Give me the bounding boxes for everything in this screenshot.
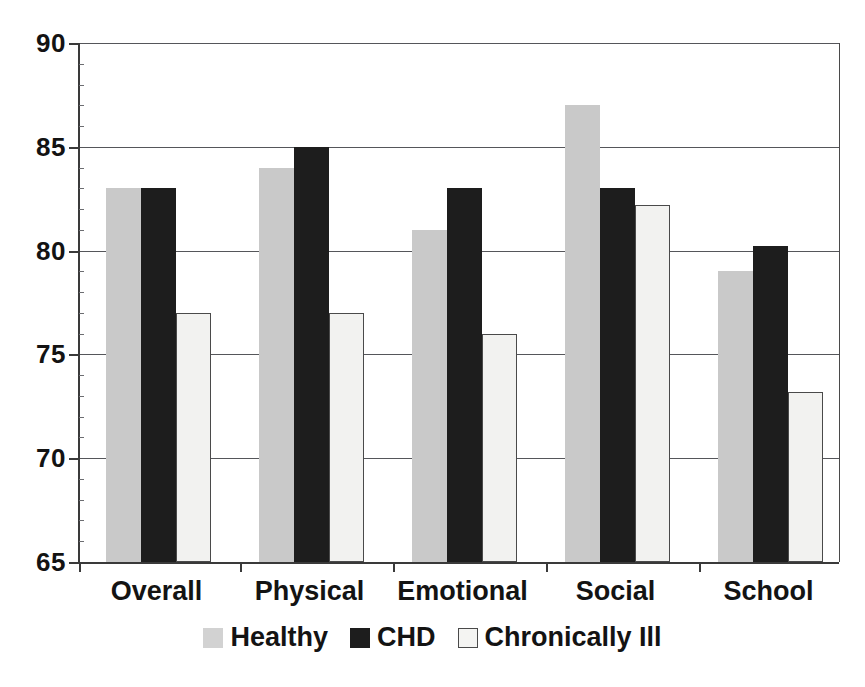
y-tick-minor — [79, 396, 84, 397]
bar-physical-healthy[interactable] — [259, 168, 294, 562]
y-tick-minor — [79, 541, 84, 542]
y-tick-minor — [79, 188, 84, 189]
bar-physical-chronically-ill[interactable] — [329, 313, 364, 562]
y-axis-label-75: 75 — [8, 339, 66, 370]
y-tick-minor — [79, 168, 84, 169]
x-tick — [546, 562, 548, 572]
bar-physical-chd[interactable] — [294, 147, 329, 562]
bar-emotional-chd[interactable] — [447, 188, 482, 562]
y-tick-minor — [79, 375, 84, 376]
x-axis-label-emotional: Emotional — [397, 576, 528, 607]
bar-group-overall — [106, 43, 211, 562]
plot-area — [78, 43, 840, 562]
x-axis-label-school: School — [723, 576, 813, 607]
bar-overall-chd[interactable] — [141, 188, 176, 562]
x-tick — [240, 562, 242, 572]
y-tick-minor — [79, 85, 84, 86]
bar-emotional-chronically-ill[interactable] — [482, 334, 517, 562]
y-tick-minor — [79, 105, 84, 106]
y-tick-minor — [79, 520, 84, 521]
y-tick-minor — [79, 479, 84, 480]
swatch-white-outline-icon — [458, 628, 478, 648]
x-axis-label-social: Social — [576, 576, 656, 607]
y-tick-75 — [69, 354, 80, 356]
gridline-65 — [80, 562, 839, 564]
legend-item-chd[interactable]: CHD — [350, 622, 436, 653]
y-tick-minor — [79, 126, 84, 127]
y-axis-label-90: 90 — [8, 28, 66, 59]
bar-group-emotional — [412, 43, 517, 562]
y-axis-label-80: 80 — [8, 235, 66, 266]
x-tick — [699, 562, 701, 572]
bar-group-school — [718, 43, 823, 562]
legend-item-chronically-ill[interactable]: Chronically Ill — [458, 622, 662, 653]
y-tick-90 — [69, 43, 80, 45]
y-tick-minor — [79, 64, 84, 65]
swatch-light-gray-icon — [203, 628, 223, 648]
y-tick-80 — [69, 251, 80, 253]
y-tick-minor — [79, 500, 84, 501]
bar-overall-healthy[interactable] — [106, 188, 141, 562]
x-tick-origin — [79, 562, 81, 572]
y-tick-70 — [69, 458, 80, 460]
bar-overall-chronically-ill[interactable] — [176, 313, 211, 562]
y-tick-minor — [79, 437, 84, 438]
x-axis-label-overall: Overall — [111, 576, 203, 607]
y-tick-minor — [79, 313, 84, 314]
bar-emotional-healthy[interactable] — [412, 230, 447, 562]
bar-school-chronically-ill[interactable] — [788, 392, 823, 562]
x-tick — [393, 562, 395, 572]
bar-school-chd[interactable] — [753, 246, 788, 562]
legend-label: Healthy — [230, 622, 328, 653]
bar-social-healthy[interactable] — [565, 105, 600, 562]
y-tick-85 — [69, 147, 80, 149]
bar-school-healthy[interactable] — [718, 271, 753, 562]
y-tick-minor — [79, 334, 84, 335]
legend-label: Chronically Ill — [485, 622, 662, 653]
y-tick-minor — [79, 417, 84, 418]
y-axis-label-65: 65 — [8, 547, 66, 578]
swatch-black-icon — [350, 628, 370, 648]
y-axis-label-70: 70 — [8, 443, 66, 474]
bar-group-social — [565, 43, 670, 562]
bar-social-chd[interactable] — [600, 188, 635, 562]
bar-social-chronically-ill[interactable] — [635, 205, 670, 562]
y-axis-label-85: 85 — [8, 131, 66, 162]
bar-chart: 908580757065 OverallPhysicalEmotionalSoc… — [0, 0, 865, 687]
y-tick-minor — [79, 292, 84, 293]
y-tick-minor — [79, 209, 84, 210]
x-axis-label-physical: Physical — [255, 576, 365, 607]
legend-item-healthy[interactable]: Healthy — [203, 622, 328, 653]
y-tick-minor — [79, 271, 84, 272]
legend-label: CHD — [377, 622, 436, 653]
chart-legend: HealthyCHDChronically Ill — [0, 622, 865, 653]
bar-group-physical — [259, 43, 364, 562]
y-tick-minor — [79, 230, 84, 231]
